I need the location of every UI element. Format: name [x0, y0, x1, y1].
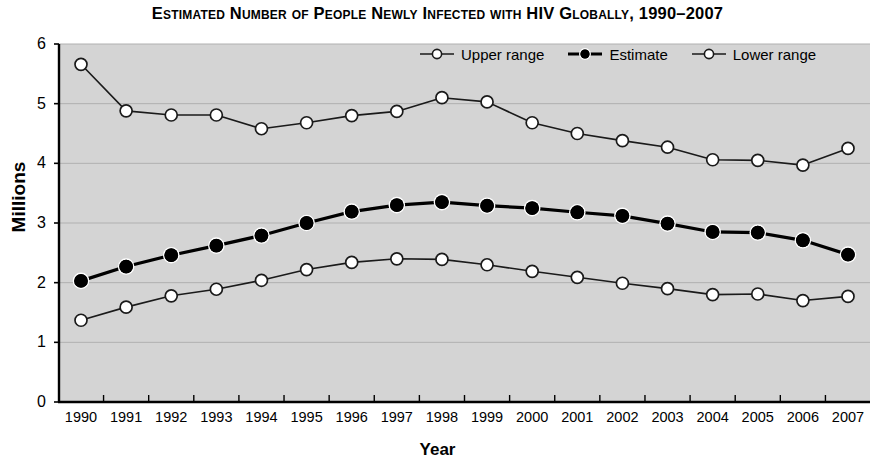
data-point — [481, 96, 493, 108]
legend-filled-circle-icon — [566, 46, 604, 62]
data-point — [120, 105, 132, 117]
data-point — [391, 253, 403, 265]
data-point — [526, 117, 538, 129]
y-tick-label: 6 — [22, 36, 46, 52]
data-point — [842, 142, 854, 154]
legend-item-lower-range: Lower range — [690, 46, 816, 62]
data-point — [165, 109, 177, 121]
x-tick-label: 2005 — [734, 410, 782, 425]
data-point — [346, 110, 358, 122]
data-point — [616, 277, 628, 289]
data-point — [797, 159, 809, 171]
chart-legend: Upper rangeEstimateLower range — [418, 46, 816, 62]
x-tick-label: 1994 — [237, 410, 285, 425]
data-point — [752, 288, 764, 300]
x-tick-label: 1998 — [418, 410, 466, 425]
x-tick-label: 2003 — [644, 410, 692, 425]
legend-open-circle-icon — [418, 46, 456, 62]
x-tick-label: 2006 — [779, 410, 827, 425]
data-point — [346, 256, 358, 268]
legend-label: Upper range — [461, 47, 544, 62]
x-tick-label: 2007 — [824, 410, 872, 425]
x-tick-label: 1999 — [463, 410, 511, 425]
legend-item-upper-range: Upper range — [418, 46, 544, 62]
x-tick-label: 1992 — [147, 410, 195, 425]
data-point — [255, 274, 267, 286]
y-tick-label: 0 — [22, 394, 46, 410]
x-tick-label: 1993 — [192, 410, 240, 425]
x-tick-label: 1997 — [373, 410, 421, 425]
data-point — [301, 117, 313, 129]
x-tick-label: 1990 — [57, 410, 105, 425]
y-tick-label: 1 — [22, 334, 46, 350]
y-tick-label: 4 — [22, 155, 46, 171]
x-tick-label: 1995 — [283, 410, 331, 425]
data-point — [436, 92, 448, 104]
legend-label: Lower range — [733, 47, 816, 62]
data-point — [391, 105, 403, 117]
data-point — [165, 290, 177, 302]
data-point — [75, 314, 87, 326]
chart-container: Estimated Number of People Newly Infecte… — [0, 0, 875, 466]
data-point — [662, 283, 674, 295]
legend-open-circle-icon — [690, 46, 728, 62]
data-point — [662, 141, 674, 153]
data-point — [301, 264, 313, 276]
data-point — [707, 289, 719, 301]
x-tick-label: 2002 — [598, 410, 646, 425]
y-tick-label: 5 — [22, 96, 46, 112]
data-point — [210, 109, 222, 121]
data-point — [707, 154, 719, 166]
data-point — [797, 295, 809, 307]
legend-item-estimate: Estimate — [566, 46, 667, 62]
data-point — [752, 154, 764, 166]
plot-area — [0, 0, 875, 466]
data-point — [481, 259, 493, 271]
legend-label: Estimate — [609, 47, 667, 62]
data-point — [120, 301, 132, 313]
data-point — [842, 290, 854, 302]
y-tick-label: 3 — [22, 215, 46, 231]
x-tick-label: 2000 — [508, 410, 556, 425]
x-tick-label: 2004 — [689, 410, 737, 425]
data-point — [616, 135, 628, 147]
data-point — [571, 128, 583, 140]
x-tick-label: 1996 — [328, 410, 376, 425]
data-point — [526, 265, 538, 277]
chart-title: Estimated Number of People Newly Infecte… — [0, 4, 875, 23]
x-tick-label: 2001 — [553, 410, 601, 425]
data-point — [210, 283, 222, 295]
data-point — [255, 123, 267, 135]
data-point — [436, 253, 448, 265]
data-point — [571, 271, 583, 283]
x-tick-label: 1991 — [102, 410, 150, 425]
x-axis-title: Year — [0, 440, 875, 460]
data-point — [75, 58, 87, 70]
y-tick-label: 2 — [22, 275, 46, 291]
